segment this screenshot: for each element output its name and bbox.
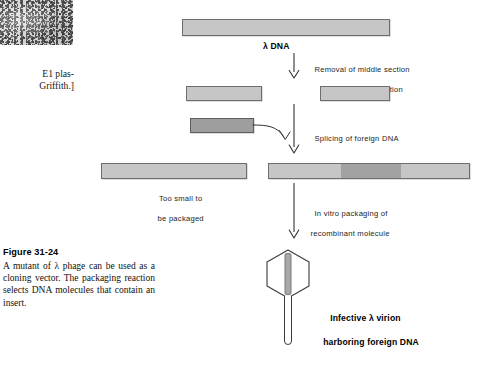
step-packaging-line1: In vitro packaging of — [314, 209, 387, 218]
photo-credit-text: E1 plas- Griffith.] — [0, 68, 74, 91]
step-packaging-line2: recombinant molecule — [310, 229, 389, 239]
phage-tail-icon — [285, 296, 292, 345]
label-lambda-dna: λ DNA — [263, 41, 290, 52]
label-too-small-line1: Too small to — [159, 194, 203, 203]
figure-page: E1 plas- Griffith.] Figure 31-24A mutant… — [0, 0, 491, 365]
arrow-in-vitro-packaging — [286, 183, 302, 239]
label-virion-line2: harboring foreign DNA — [323, 336, 419, 348]
electron-micrograph-image — [0, 0, 73, 45]
figure-caption-title: Figure 31-24 — [3, 246, 155, 259]
arrow-splicing — [286, 104, 302, 154]
figure-caption: Figure 31-24A mutant of λ phage can be u… — [3, 246, 155, 309]
bar-recombinant-insert-segment — [341, 164, 401, 178]
bar-foreign-dna — [190, 118, 254, 133]
label-too-small-line2: be packaged — [158, 214, 204, 223]
step-splicing-line1: Splicing of foreign DNA — [314, 134, 398, 143]
bar-right-arm — [320, 86, 390, 101]
step-label-packaging: In vitro packaging of recombinant molecu… — [305, 199, 390, 249]
bar-recombinant-molecule — [268, 163, 470, 179]
label-too-small: Too small to be packaged — [141, 184, 211, 234]
phage-virion-diagram — [258, 246, 318, 352]
step-restriction-line1: Removal of middle section — [314, 65, 409, 74]
bar-lambda-dna — [182, 19, 390, 36]
label-virion-line1: Infective λ virion — [330, 313, 401, 323]
bar-left-arm — [186, 86, 262, 101]
step-label-splicing: Splicing of foreign DNA — [305, 124, 399, 154]
arrow-restriction-digestion — [286, 53, 302, 79]
figure-caption-body: A mutant of λ phage can be used as a clo… — [3, 261, 155, 308]
phage-packaged-dna-icon — [285, 254, 291, 295]
bar-too-small-product — [101, 163, 247, 179]
label-infective-virion: Infective λ virion harboring foreign DNA — [320, 300, 419, 360]
